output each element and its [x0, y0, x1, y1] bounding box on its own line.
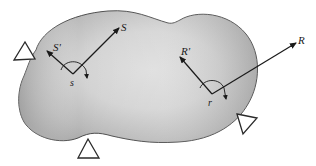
rigid-body [19, 11, 258, 143]
support-bottom [78, 139, 99, 158]
axis-R-label: R [297, 34, 305, 46]
axis-S-prime-label: S' [53, 41, 62, 53]
axis-S-label: S [121, 21, 127, 33]
axis-R-prime-label: R' [180, 45, 191, 57]
support-left [14, 42, 35, 60]
point-r-label: r [208, 97, 212, 108]
rigid-body-diagram: s S S' r R R' [0, 0, 316, 166]
point-s-label: s [70, 77, 74, 88]
support-right [237, 114, 257, 134]
